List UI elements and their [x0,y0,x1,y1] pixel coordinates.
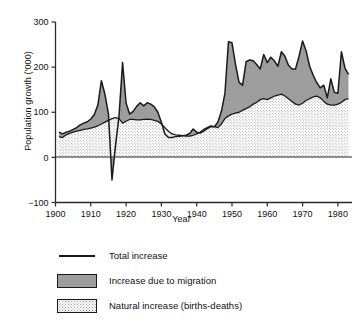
y-tick-label: 200 [33,62,48,72]
chart-areas [59,41,348,180]
plot-area: −1000100200300 1900191019201930194019501… [0,0,363,230]
legend-natural-swatch-icon [57,299,97,313]
population-growth-chart-figure: −1000100200300 1900191019201930194019501… [0,0,363,325]
legend-label-total-increase: Total increase [109,250,168,261]
legend-item-migration: Increase due to migration [0,268,363,293]
legend-label-natural-increase: Natural increase (births-deaths) [109,300,242,311]
legend-migration-swatch-icon [57,274,97,288]
legend-item-total-increase: Total increase [0,243,363,268]
y-tick-label: 100 [33,107,48,117]
y-tick-label: 0 [43,153,48,163]
chart-legend: Total increase Increase due to migration… [0,243,363,318]
y-tick-label: −100 [28,198,48,208]
y-axis-title: Population growth ('000) [23,26,33,176]
x-axis-title: Year [0,214,363,224]
chart-svg: −1000100200300 1900191019201930194019501… [0,0,363,230]
legend-label-migration: Increase due to migration [109,275,216,286]
legend-item-natural-increase: Natural increase (births-deaths) [0,293,363,318]
y-tick-label: 300 [33,17,48,27]
legend-line-swatch-icon [57,248,97,263]
